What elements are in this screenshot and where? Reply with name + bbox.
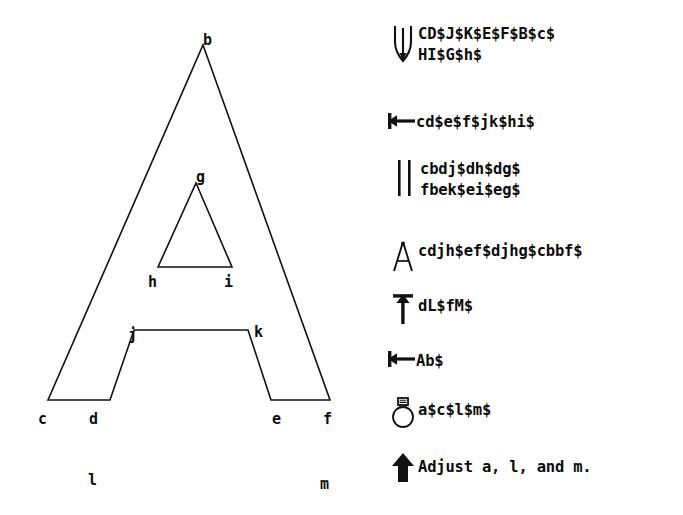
vertex-label-l: l (88, 473, 97, 488)
vertex-label-e: e (272, 412, 281, 427)
compass-divider-icon (388, 240, 418, 274)
vertex-label-f: f (323, 412, 332, 427)
legend-row: cbdj$dh$dg$ fbek$ei$eg$ (390, 158, 683, 201)
diagram-pane: b g h i j k c d e f l m (0, 0, 386, 515)
solid-up-arrow-icon (388, 452, 418, 484)
vertex-label-i: i (224, 275, 233, 290)
parallel-lines-icon (390, 158, 420, 198)
legend-row-text: cdjh$ef$djhg$cbbf$ (418, 240, 683, 262)
legend-row-text: Ab$ (416, 348, 681, 372)
legend-row: CD$J$K$E$F$B$c$ HI$G$h$ (388, 24, 683, 66)
vertex-label-k: k (254, 325, 263, 340)
vertex-label-h: h (148, 275, 157, 290)
legend-row: Adjust a, l, and m. (388, 452, 683, 484)
legend-list: CD$J$K$E$F$B$c$ HI$G$h$ cd$e$f$jk$hi$ (386, 0, 683, 515)
up-arrow-to-bar-icon (388, 292, 418, 326)
legend-row-text: a$c$l$m$ (418, 396, 683, 421)
vertex-label-m: m (320, 477, 329, 492)
vertex-label-c: c (38, 412, 47, 427)
legend-row: dL$fM$ (388, 292, 683, 326)
legend-pane: CD$J$K$E$F$B$c$ HI$G$h$ cd$e$f$jk$hi$ (386, 0, 683, 515)
legend-row: cd$e$f$jk$hi$ (386, 110, 681, 133)
letter-a-outline-graphic (0, 0, 386, 515)
legend-row-text: dL$fM$ (418, 292, 683, 317)
legend-row: a$c$l$m$ (388, 396, 683, 430)
legend-row-text: cd$e$f$jk$hi$ (416, 110, 681, 133)
legend-row: cdjh$ef$djhg$cbbf$ (388, 240, 683, 274)
vertex-label-g: g (196, 170, 205, 185)
vertex-label-d: d (89, 412, 98, 427)
legend-row-text: cbdj$dh$dg$ fbek$ei$eg$ (420, 158, 683, 201)
vertex-label-j: j (128, 328, 137, 343)
left-arrow-to-bar-icon (386, 348, 416, 370)
vertex-label-b: b (203, 33, 212, 48)
left-arrow-to-bar-icon (386, 110, 416, 132)
legend-row-text: Adjust a, l, and m. (418, 452, 683, 478)
flask-balloon-icon (388, 396, 418, 430)
legend-row-text: CD$J$K$E$F$B$c$ HI$G$h$ (418, 24, 683, 66)
legend-row: Ab$ (386, 348, 681, 372)
page-root: b g h i j k c d e f l m CD$J$K$E$F$B$c$ (0, 0, 683, 515)
tuning-fork-icon (388, 24, 418, 64)
